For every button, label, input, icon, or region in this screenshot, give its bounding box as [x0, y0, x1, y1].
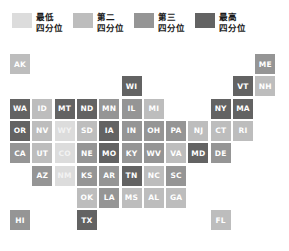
legend-swatch-q4: [195, 13, 215, 28]
state-tile-nv[interactable]: NV: [32, 121, 52, 141]
state-tile-de[interactable]: DE: [211, 143, 231, 163]
legend-swatch-q1: [12, 13, 32, 28]
state-tile-tx[interactable]: TX: [77, 210, 97, 230]
legend-label: 最低四分位: [36, 12, 63, 33]
state-tile-ri[interactable]: RI: [233, 121, 253, 141]
state-tile-or[interactable]: OR: [10, 121, 30, 141]
state-tile-wi[interactable]: WI: [122, 76, 142, 96]
state-tile-mn[interactable]: MN: [99, 99, 119, 119]
legend: 最低四分位第二四分位第三四分位最高四分位: [12, 12, 277, 38]
state-tile-sd[interactable]: SD: [77, 121, 97, 141]
state-tile-pa[interactable]: PA: [166, 121, 186, 141]
state-tile-va[interactable]: VA: [166, 143, 186, 163]
state-tile-md[interactable]: MD: [188, 143, 208, 163]
state-tile-ga[interactable]: GA: [166, 188, 186, 208]
legend-label-line2: 四分位: [36, 23, 63, 34]
legend-item-4: 最高四分位: [195, 12, 246, 33]
state-tile-wy[interactable]: WY: [55, 121, 75, 141]
legend-label: 最高四分位: [219, 12, 246, 33]
legend-label-line1: 最高: [219, 12, 246, 23]
state-tile-ma[interactable]: MA: [233, 99, 253, 119]
state-tile-me[interactable]: ME: [255, 54, 275, 74]
state-tile-nm[interactable]: NM: [55, 166, 75, 186]
state-tile-id[interactable]: ID: [32, 99, 52, 119]
legend-label-line2: 四分位: [219, 23, 246, 34]
state-tile-ny[interactable]: NY: [211, 99, 231, 119]
state-tile-ne[interactable]: NE: [77, 143, 97, 163]
state-tile-mo[interactable]: MO: [99, 143, 119, 163]
legend-item-1: 最低四分位: [12, 12, 63, 33]
state-tile-ia[interactable]: IA: [99, 121, 119, 141]
state-tile-mi[interactable]: MI: [144, 99, 164, 119]
legend-label-line2: 四分位: [97, 23, 124, 34]
state-tile-nd[interactable]: ND: [77, 99, 97, 119]
state-tile-la[interactable]: LA: [99, 188, 119, 208]
state-tile-co[interactable]: CO: [55, 143, 75, 163]
legend-label-line1: 第三: [158, 12, 185, 23]
state-tile-hi[interactable]: HI: [10, 210, 30, 230]
state-tile-ky[interactable]: KY: [122, 143, 142, 163]
state-tile-ca[interactable]: CA: [10, 143, 30, 163]
legend-swatch-q2: [73, 13, 93, 28]
state-tile-grid: AKMEWIVTNHWAIDMTNDMNILMINYMAORNVWYSDIAIN…: [0, 44, 289, 251]
state-tile-wv[interactable]: WV: [144, 143, 164, 163]
tile-map-chart: 最低四分位第二四分位第三四分位最高四分位 AKMEWIVTNHWAIDMTNDM…: [0, 0, 289, 251]
state-tile-oh[interactable]: OH: [144, 121, 164, 141]
state-tile-wa[interactable]: WA: [10, 99, 30, 119]
state-tile-il[interactable]: IL: [122, 99, 142, 119]
state-tile-tn[interactable]: TN: [122, 166, 142, 186]
state-tile-in[interactable]: IN: [122, 121, 142, 141]
state-tile-ct[interactable]: CT: [211, 121, 231, 141]
state-tile-fl[interactable]: FL: [211, 210, 231, 230]
legend-swatch-q3: [134, 13, 154, 28]
state-tile-nh[interactable]: NH: [255, 76, 275, 96]
state-tile-ks[interactable]: KS: [77, 166, 97, 186]
state-tile-al[interactable]: AL: [144, 188, 164, 208]
state-tile-ak[interactable]: AK: [10, 54, 30, 74]
legend-label-line1: 第二: [97, 12, 124, 23]
legend-label-line2: 四分位: [158, 23, 185, 34]
legend-label: 第二四分位: [97, 12, 124, 33]
legend-label: 第三四分位: [158, 12, 185, 33]
state-tile-vt[interactable]: VT: [233, 76, 253, 96]
legend-item-2: 第二四分位: [73, 12, 124, 33]
state-tile-ms[interactable]: MS: [122, 188, 142, 208]
state-tile-ut[interactable]: UT: [32, 143, 52, 163]
state-tile-az[interactable]: AZ: [32, 166, 52, 186]
state-tile-ar[interactable]: AR: [99, 166, 119, 186]
state-tile-nj[interactable]: NJ: [188, 121, 208, 141]
state-tile-ok[interactable]: OK: [77, 188, 97, 208]
state-tile-mt[interactable]: MT: [55, 99, 75, 119]
state-tile-sc[interactable]: SC: [166, 166, 186, 186]
state-tile-nc[interactable]: NC: [144, 166, 164, 186]
legend-label-line1: 最低: [36, 12, 63, 23]
legend-item-3: 第三四分位: [134, 12, 185, 33]
